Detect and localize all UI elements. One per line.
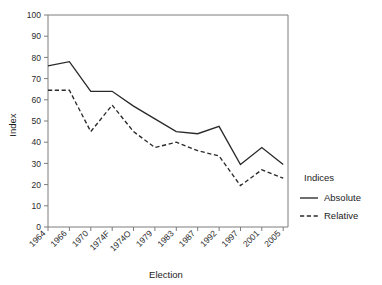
x-tick-label-1983: 1983 bbox=[155, 228, 176, 249]
legend-label-relative: Relative bbox=[324, 210, 358, 221]
y-tick-label-10: 10 bbox=[32, 201, 42, 211]
line-chart-figure: 100 90 80 70 60 50 40 30 20 10 0 Index bbox=[0, 0, 382, 285]
x-tick-label-1966: 1966 bbox=[48, 228, 69, 249]
x-tick-label-2005: 2005 bbox=[262, 228, 283, 249]
x-tick-label-1974O: 1974O bbox=[108, 228, 133, 253]
legend-label-absolute: Absolute bbox=[324, 192, 361, 203]
plot-frame bbox=[48, 15, 288, 227]
legend-title: Indices bbox=[304, 172, 334, 183]
x-axis-title: Election bbox=[149, 269, 183, 280]
y-tick-label-60: 60 bbox=[32, 95, 42, 105]
x-tick-label-1964: 1964 bbox=[27, 228, 48, 249]
legend-item-relative[interactable]: Relative bbox=[300, 210, 358, 221]
y-tick-label-30: 30 bbox=[32, 159, 42, 169]
x-tick-label-1997: 1997 bbox=[219, 228, 240, 249]
y-tick-label-70: 70 bbox=[32, 74, 42, 84]
x-tick-label-1979: 1979 bbox=[134, 228, 155, 249]
y-tick-label-20: 20 bbox=[32, 180, 42, 190]
series-line-relative bbox=[48, 90, 283, 185]
chart-canvas: 100 90 80 70 60 50 40 30 20 10 0 Index bbox=[0, 0, 382, 285]
y-tick-label-50: 50 bbox=[32, 116, 42, 126]
series-line-absolute bbox=[48, 62, 283, 165]
y-axis-tick-labels: 100 90 80 70 60 50 40 30 20 10 0 bbox=[27, 10, 41, 232]
y-tick-label-40: 40 bbox=[32, 137, 42, 147]
x-tick-label-1992: 1992 bbox=[198, 228, 219, 249]
legend: Indices Absolute Relative bbox=[300, 172, 361, 221]
y-axis-ticks bbox=[44, 15, 48, 227]
y-tick-label-80: 80 bbox=[32, 53, 42, 63]
x-axis-tick-labels: 1964 1966 1970 1974F 1974O 1979 1983 198… bbox=[27, 228, 283, 253]
legend-item-absolute[interactable]: Absolute bbox=[300, 192, 361, 203]
x-tick-label-2001: 2001 bbox=[241, 228, 262, 249]
y-tick-label-90: 90 bbox=[32, 31, 42, 41]
y-tick-label-100: 100 bbox=[27, 10, 41, 20]
x-tick-label-1974F: 1974F bbox=[87, 228, 111, 252]
y-axis-title: Index bbox=[7, 113, 18, 136]
x-tick-label-1987: 1987 bbox=[177, 228, 198, 249]
